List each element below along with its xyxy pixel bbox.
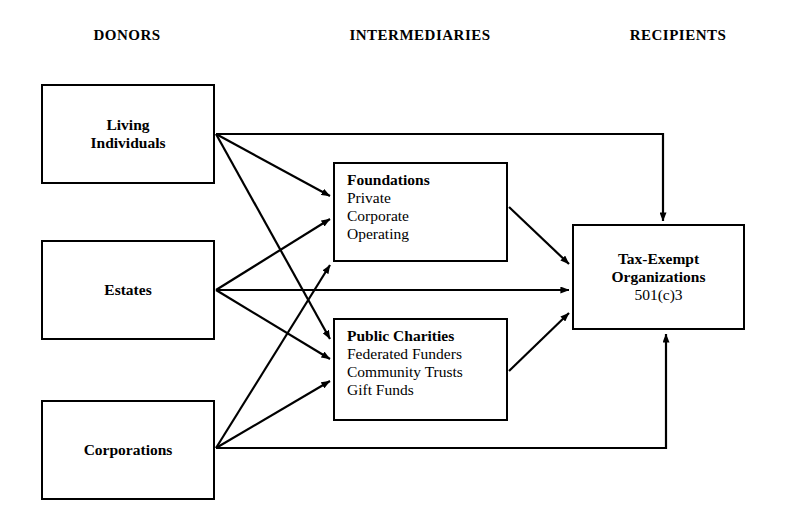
edge-corporations-to-public-charities: [216, 381, 330, 448]
edge-estates-to-foundations: [216, 219, 330, 290]
node-corporations-title: Corporations: [84, 441, 173, 459]
node-public-charities-title: Public Charities: [347, 327, 506, 345]
node-estates[interactable]: Estates: [41, 240, 215, 340]
node-public-charities-item-gift-funds: Gift Funds: [347, 381, 506, 399]
node-public-charities-item-community-trusts: Community Trusts: [347, 363, 506, 381]
edge-living-individuals-to-public-charities: [216, 134, 330, 339]
edge-public-charities-to-tax-exempt: [509, 313, 569, 371]
node-corporations[interactable]: Corporations: [41, 400, 215, 500]
edge-corporations-to-foundations: [216, 265, 330, 448]
node-foundations-title: Foundations: [347, 171, 506, 189]
column-header-donors: DONORS: [93, 27, 160, 44]
node-foundations[interactable]: Foundations Private Corporate Operating: [333, 162, 508, 262]
node-foundations-item-private: Private: [347, 189, 506, 207]
edge-foundations-to-tax-exempt: [509, 207, 569, 264]
column-header-intermediaries: INTERMEDIARIES: [349, 27, 490, 44]
edge-living-individuals-to-foundations: [216, 134, 330, 196]
node-tax-exempt-subtitle: 501(c)3: [634, 286, 682, 304]
node-living-individuals-title-line2: Individuals: [91, 134, 166, 152]
edge-estates-to-public-charities: [216, 290, 330, 359]
node-living-individuals-title: Living: [106, 116, 149, 134]
node-tax-exempt-title: Tax-Exempt: [618, 250, 699, 268]
node-tax-exempt-organizations[interactable]: Tax-Exempt Organizations 501(c)3: [572, 224, 745, 330]
node-foundations-item-operating: Operating: [347, 225, 506, 243]
node-public-charities[interactable]: Public Charities Federated Funders Commu…: [333, 318, 508, 421]
node-foundations-item-corporate: Corporate: [347, 207, 506, 225]
diagram-canvas: DONORS INTERMEDIARIES RECIPIENTS Living …: [0, 0, 786, 532]
node-public-charities-item-federated-funders: Federated Funders: [347, 345, 506, 363]
node-living-individuals[interactable]: Living Individuals: [41, 84, 215, 184]
column-header-recipients: RECIPIENTS: [630, 27, 727, 44]
node-tax-exempt-title-line2: Organizations: [612, 268, 706, 286]
node-estates-title: Estates: [104, 281, 151, 299]
